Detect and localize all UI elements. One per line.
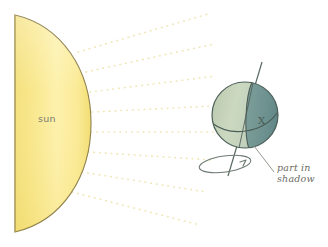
part-in-shadow-annotation: part inshadow (277, 163, 315, 184)
shadow-leader-line (254, 146, 274, 172)
earth-marker-x-label: X (258, 115, 265, 126)
diagram-canvas: sun X part inshadow (0, 0, 328, 247)
shadow-annotation-line1: part in (277, 162, 311, 173)
shadow-annotation-line2: shadow (277, 174, 315, 185)
sun-label: sun (38, 114, 56, 125)
earth-rotation-arrowhead-icon (240, 160, 246, 166)
